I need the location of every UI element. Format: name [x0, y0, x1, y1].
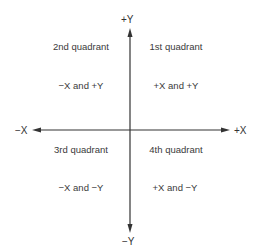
quadrant-1-title: 1st quadrant: [150, 42, 203, 52]
axis-label-pos-y: +Y: [121, 15, 134, 25]
arrow-left-icon: [32, 128, 41, 133]
quadrant-4-signs: +X and −Y: [153, 183, 198, 193]
axis-label-neg-x: −X: [15, 126, 28, 136]
arrow-right-icon: [221, 128, 230, 133]
axis-label-pos-x: +X: [234, 126, 247, 136]
quadrant-1-signs: +X and +Y: [154, 81, 199, 91]
arrow-up-icon: [128, 28, 133, 37]
quadrant-3-title: 3rd quadrant: [54, 145, 108, 155]
quadrant-2-signs: −X and +Y: [59, 81, 104, 91]
quadrant-4-title: 4th quadrant: [149, 145, 202, 155]
quadrant-3-signs: −X and −Y: [59, 183, 104, 193]
quadrant-2-title: 2nd quadrant: [53, 42, 109, 52]
arrow-down-icon: [128, 224, 133, 233]
axes-graphic: [0, 0, 259, 252]
axis-label-neg-y: −Y: [122, 237, 135, 247]
